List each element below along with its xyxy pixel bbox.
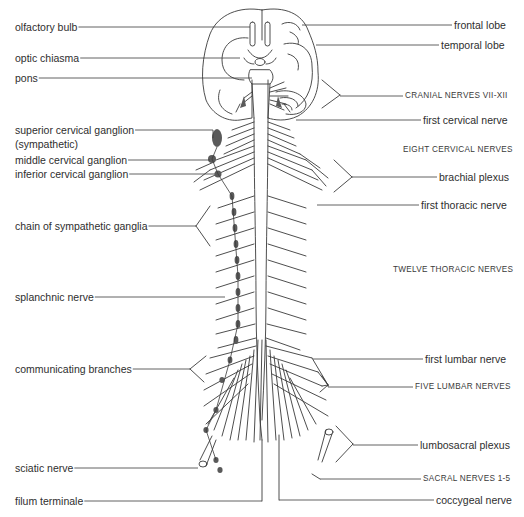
- label-brachial-plexus: brachial plexus: [439, 171, 509, 183]
- brain-outline: [203, 9, 319, 120]
- label-olfactory-bulb: olfactory bulb: [15, 21, 77, 33]
- label-first-cervical-nerve: first cervical nerve: [423, 114, 508, 126]
- label-frontal-lobe: frontal lobe: [454, 19, 506, 31]
- label-first-lumbar-nerve: first lumbar nerve: [425, 353, 506, 365]
- label-five-lumbar-nerves: FIVE LUMBAR NERVES: [415, 381, 511, 393]
- label-cranial-nerves-vii-xii: CRANIAL NERVES VII-XII: [405, 90, 508, 102]
- nervous-system-diagram: olfactory bulb optic chiasma pons superi…: [0, 0, 524, 517]
- label-lumbosacral-plexus: lumbosacral plexus: [420, 439, 510, 451]
- label-twelve-thoracic-nerves: TWELVE THORACIC NERVES: [393, 264, 513, 276]
- label-sacral-nerves-1-5: SACRAL NERVES 1-5: [423, 473, 510, 485]
- label-inferior-cervical-ganglion: inferior cervical ganglion: [15, 168, 128, 180]
- label-sympathetic: (sympathetic): [15, 138, 78, 150]
- label-communicating-branches: communicating branches: [15, 363, 132, 375]
- spinal-cord: [208, 118, 316, 501]
- label-filum-terminale: filum terminale: [15, 495, 83, 507]
- label-superior-cervical-ganglion: superior cervical ganglion: [15, 124, 134, 136]
- label-chain-of-sympathetic-ganglia: chain of sympathetic ganglia: [15, 220, 148, 232]
- label-first-thoracic-nerve: first thoracic nerve: [421, 199, 507, 211]
- label-coccygeal-nerve: coccygeal nerve: [436, 494, 512, 506]
- label-pons: pons: [15, 72, 38, 84]
- label-middle-cervical-ganglion: middle cervical ganglion: [15, 154, 127, 166]
- label-eight-cervical-nerves: EIGHT CERVICAL NERVES: [403, 144, 513, 156]
- thoracic-nerves: [216, 196, 306, 350]
- label-sciatic-nerve: sciatic nerve: [15, 462, 73, 474]
- lumbosacral-nerves: [199, 346, 333, 467]
- label-optic-chiasma: optic chiasma: [15, 52, 79, 64]
- label-temporal-lobe: temporal lobe: [441, 39, 505, 51]
- label-splanchnic-nerve: splanchnic nerve: [15, 291, 94, 303]
